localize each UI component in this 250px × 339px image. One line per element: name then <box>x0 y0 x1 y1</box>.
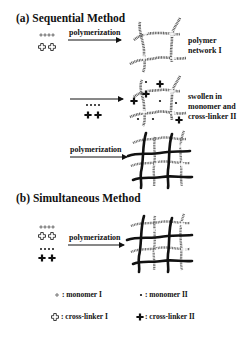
legend-monomer-ii-icon <box>140 294 142 296</box>
legend-monomer-i: : monomer I <box>62 290 102 299</box>
product-label-step1: polymer network I <box>188 36 222 56</box>
product-label-line: network I <box>188 46 222 56</box>
product-label-step2: swollen in monomer and cross-linker II <box>188 92 236 122</box>
section-a-title: (a) Sequential Method <box>16 12 125 24</box>
reactants-step2 <box>84 104 101 119</box>
polymer-network-i <box>130 18 186 72</box>
ipn-network-a <box>128 131 192 188</box>
legend-monomer-ii: : monomer II <box>145 290 188 299</box>
swollen-network <box>130 76 186 126</box>
product-label-line: swollen in <box>188 92 236 102</box>
monomer-i-icon <box>40 226 54 228</box>
product-label-line: monomer and <box>188 102 236 112</box>
arrow-label-step1: polymerization <box>69 28 121 37</box>
cross-linker-ii-icon <box>38 254 55 261</box>
legend-cross-linker-i: : cross-linker I <box>61 312 108 321</box>
legend-cross-linker-i-icon <box>52 314 59 321</box>
reactants-step1 <box>39 34 56 51</box>
arrow-label-step3: polymerization <box>70 145 122 154</box>
ipn-network-b <box>127 214 192 272</box>
product-label-line: polymer <box>188 36 222 46</box>
legend-cross-linker-ii-icon <box>136 313 143 320</box>
reactants-simultaneous <box>38 226 55 262</box>
legend-monomer-i-icon <box>56 294 58 296</box>
legend-cross-linker-ii: : cross-linker II <box>145 312 195 321</box>
monomer-ii-icon <box>86 104 100 106</box>
cross-linker-ii-icon <box>84 111 101 118</box>
monomer-i-icon <box>40 34 54 36</box>
section-b-title: (b) Simultaneous Method <box>16 192 141 204</box>
cross-linker-i-icon <box>39 233 56 240</box>
cross-linker-i-icon <box>39 44 56 51</box>
arrow-label-b: polymerization <box>69 233 121 242</box>
product-label-line: cross-linker II <box>188 112 236 122</box>
monomer-ii-icon <box>40 248 54 250</box>
